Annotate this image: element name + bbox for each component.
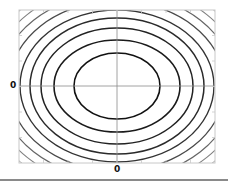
bottom-divider (0, 179, 228, 181)
y-axis-zero-label: 0 (10, 81, 16, 90)
x-axis-zero-label: 0 (114, 165, 120, 174)
contour-plot (0, 0, 228, 183)
